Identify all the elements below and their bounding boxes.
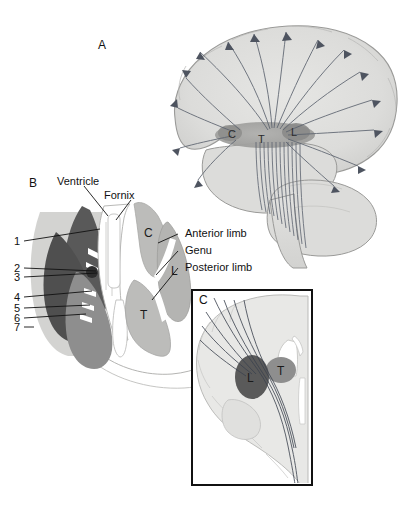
panel-c-label-T: T — [277, 364, 285, 378]
panel-c-letter: C — [199, 294, 208, 306]
panel-c-label-L: L — [247, 371, 254, 385]
figure-root: C T L A — [0, 0, 405, 513]
panel-c-graphic: L T — [0, 0, 405, 513]
